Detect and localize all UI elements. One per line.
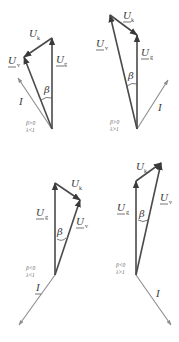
condition-beta: β>0 — [109, 119, 119, 125]
diagram-beta-neg-lambda-gt1: U k U g U v β β<0 λ>1 I — [115, 160, 172, 325]
label-ug: U g — [56, 53, 67, 67]
label-beta: β — [43, 84, 50, 95]
svg-text:k: k — [37, 35, 40, 41]
svg-text:U: U — [160, 191, 169, 203]
beta-angle-arc — [57, 238, 66, 240]
svg-text:k: k — [79, 185, 82, 191]
converter-voltage-vector-uv — [55, 200, 80, 275]
condition-beta: β<0 — [115, 262, 125, 268]
beta-angle-arc — [127, 83, 137, 86]
condition-beta: β<0 — [25, 265, 35, 271]
label-i: I — [18, 95, 24, 107]
condition-lambda: λ>1 — [109, 126, 119, 132]
condition-lambda: λ<1 — [25, 272, 35, 278]
beta-angle-arc — [138, 220, 148, 222]
label-uv: U v — [96, 37, 108, 51]
svg-text:g: g — [150, 54, 153, 60]
svg-text:g: g — [126, 209, 129, 215]
label-i: I — [35, 281, 41, 294]
current-vector-i — [137, 80, 168, 129]
svg-text:U: U — [8, 54, 17, 66]
svg-text:k: k — [144, 168, 147, 174]
svg-text:k: k — [131, 17, 134, 23]
svg-text:I: I — [35, 281, 41, 293]
label-i: I — [157, 101, 163, 113]
label-uk: U k — [136, 160, 147, 174]
svg-text:g: g — [45, 214, 48, 220]
condition-lambda: λ<1 — [25, 127, 35, 133]
svg-text:U: U — [96, 37, 105, 49]
svg-text:U: U — [117, 201, 126, 213]
condition-lambda: λ>1 — [115, 269, 125, 275]
label-uk: U k — [29, 27, 40, 41]
svg-text:U: U — [141, 46, 150, 58]
converter-voltage-vector-uv — [136, 163, 161, 275]
label-ug: U g — [141, 46, 153, 60]
label-beta: β — [127, 70, 134, 81]
svg-text:v: v — [105, 45, 108, 51]
label-ug: U g — [117, 201, 129, 215]
label-uv: U v — [8, 54, 20, 68]
svg-text:U: U — [76, 215, 85, 227]
label-ug: U g — [36, 206, 48, 220]
beta-angle-arc — [41, 97, 52, 100]
svg-text:v: v — [169, 199, 172, 205]
svg-text:v: v — [17, 62, 20, 68]
diagram-beta-neg-lambda-lt1: U k U g U v β β<0 λ<1 I — [19, 177, 88, 325]
label-i: I — [155, 287, 161, 299]
svg-text:v: v — [85, 223, 88, 229]
phasor-diagram-figure: U k U v U g β I β>0 λ<1 U k U — [0, 0, 179, 342]
label-uk: U k — [123, 9, 134, 23]
label-beta: β — [56, 226, 63, 237]
label-uk: U k — [71, 177, 82, 191]
diagram-beta-pos-lambda-gt1: U k U v U g β I β>0 λ>1 — [96, 9, 168, 132]
condition-beta: β>0 — [25, 120, 35, 126]
svg-text:g: g — [64, 61, 67, 67]
svg-text:U: U — [36, 206, 45, 218]
label-uv: U v — [160, 191, 172, 205]
current-vector-i — [136, 275, 171, 325]
label-beta: β — [138, 208, 145, 219]
diagram-beta-pos-lambda-lt1: U k U v U g β I β>0 λ<1 — [8, 27, 67, 133]
label-uv: U v — [76, 215, 88, 229]
